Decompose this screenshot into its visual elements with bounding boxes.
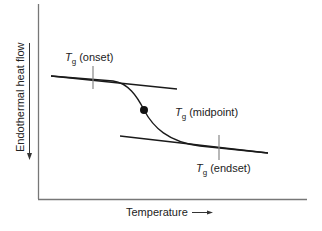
y-direction-arrow-icon [27,43,32,160]
y-axis-label: Endothermal heat flow [14,42,26,152]
dsc-diagram: Endothermal heat flow Tg(onset) Tg(midpo… [0,0,322,231]
midpoint-marker [140,106,148,114]
onset-label: Tg(onset) [65,51,113,66]
x-direction-arrow-icon [192,211,213,215]
endset-label: Tg(endset) [196,162,251,177]
midpoint-label: Tg(midpoint) [175,106,238,121]
x-axis-label: Temperature [126,206,188,218]
